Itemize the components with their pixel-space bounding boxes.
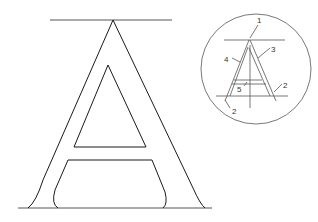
leader-3: [258, 48, 270, 58]
outer-contour: [28, 20, 205, 208]
leader-1: [250, 25, 258, 38]
large-letter-a: [18, 20, 212, 208]
detail-right-inner: [249, 48, 270, 96]
left-leg-inner: [54, 160, 68, 208]
diagram-canvas: 1 3 4 2 5 2: [0, 0, 318, 222]
counter-triangle: [74, 65, 146, 147]
label-2-right: 2: [283, 81, 288, 90]
leader-4: [232, 58, 240, 62]
magnifier-circle: [201, 14, 311, 124]
detail-circle: [201, 14, 311, 124]
label-3: 3: [271, 45, 276, 54]
leader-2-left: [225, 100, 230, 108]
label-2-left: 2: [232, 107, 237, 116]
label-4: 4: [224, 55, 229, 64]
right-leg-inner: [152, 160, 166, 208]
leader-2-right: [274, 84, 282, 92]
label-5: 5: [237, 85, 242, 94]
detail-labels: 1 3 4 2 5 2: [224, 16, 288, 116]
label-1: 1: [257, 16, 262, 25]
